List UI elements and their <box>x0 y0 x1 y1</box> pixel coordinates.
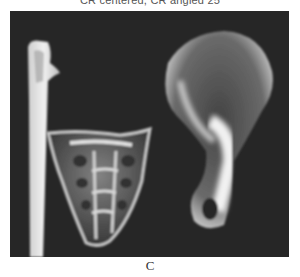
sacrum <box>48 129 150 246</box>
figure-top-caption: CR centered, CR angled 25 <box>0 0 300 6</box>
radiograph-image <box>10 11 289 257</box>
hip-bone <box>165 31 273 228</box>
figure-panel-label: C <box>0 258 300 274</box>
